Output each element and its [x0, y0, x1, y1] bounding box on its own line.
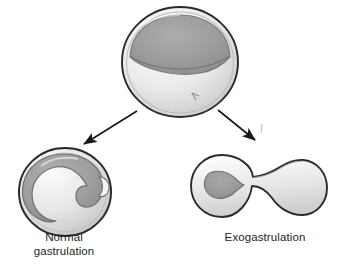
caption-exogastrulation: Exogastrulation — [190, 231, 340, 245]
diagram-canvas — [0, 0, 353, 268]
arrow-to-exogastrulation — [218, 110, 255, 140]
blastula-group — [122, 7, 238, 117]
caption-normal-gastrulation: Normal gastrulation — [4, 231, 124, 258]
exogastrula-group — [191, 155, 327, 217]
normal-gastrula-group — [19, 148, 111, 236]
arrow-tick-mark — [261, 124, 262, 133]
gastrulation-figure: Normal gastrulation Exogastrulation — [0, 0, 353, 268]
arrow-to-normal-gastrulation — [84, 111, 137, 144]
